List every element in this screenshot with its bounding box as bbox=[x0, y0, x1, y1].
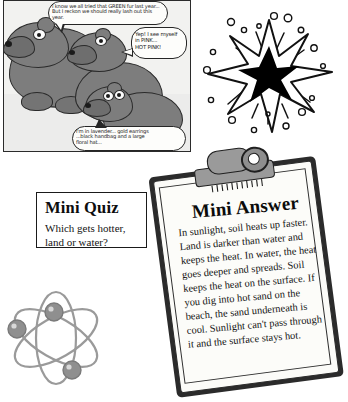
mini-answer-body: In sunlight, soil heats up faster. Land … bbox=[178, 215, 326, 352]
page-title: Mini Quiz and Mini Answer worksheet bbox=[0, 0, 1, 1]
atom-electrons bbox=[8, 303, 81, 379]
clipboard-backing: Mini Answer In sunlight, soil heats up f… bbox=[148, 156, 344, 398]
starburst-explosion-graphic bbox=[196, 8, 342, 140]
bears-cartoon-panel: I know we all tried that GREEN fur last … bbox=[3, 0, 191, 152]
answer-paper-sheet: Mini Answer In sunlight, soil heats up f… bbox=[159, 168, 332, 384]
mini-quiz-question-line1: Which gets hotter, bbox=[45, 221, 139, 235]
mini-quiz-box: Mini Quiz Which gets hotter, land or wat… bbox=[36, 192, 147, 248]
mini-answer-content: Mini Answer In sunlight, soil heats up f… bbox=[176, 191, 326, 352]
mini-answer-clipboard: Mini Answer In sunlight, soil heats up f… bbox=[140, 135, 348, 402]
atom-graphic bbox=[4, 286, 108, 390]
mini-quiz-question-line2: land or water? bbox=[45, 235, 139, 249]
cartoon-panel-border bbox=[3, 0, 191, 152]
mini-quiz-heading: Mini Quiz bbox=[45, 198, 139, 218]
